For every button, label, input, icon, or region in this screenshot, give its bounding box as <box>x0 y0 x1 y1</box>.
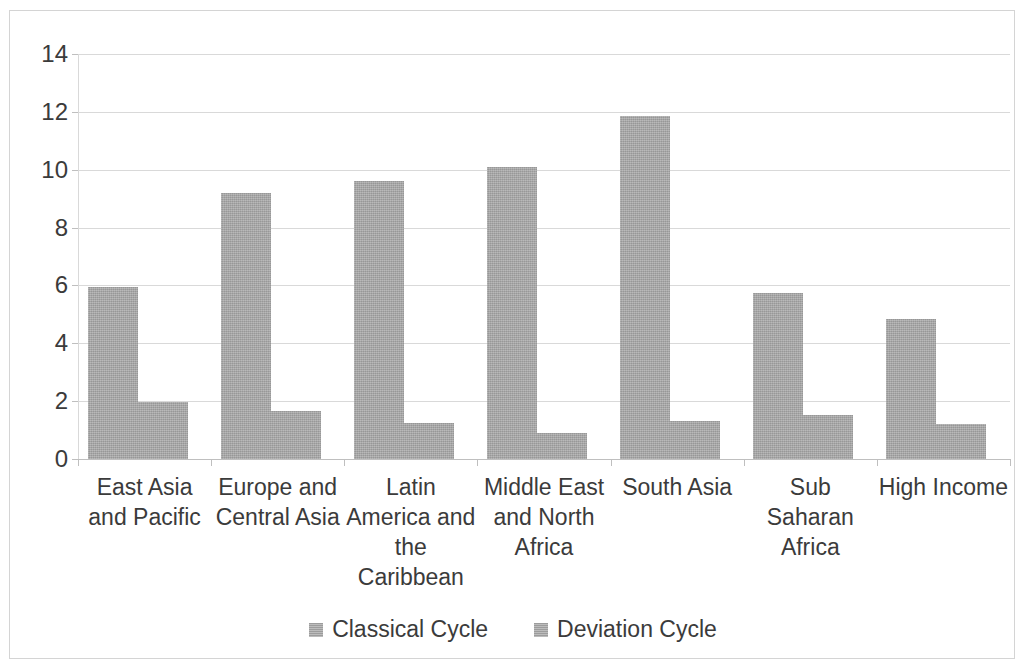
y-axis-label: 0 <box>55 447 68 471</box>
chart-container: 02468101214 East Asiaand PacificEurope a… <box>0 0 1025 669</box>
x-tick <box>78 459 79 466</box>
bar <box>404 423 454 459</box>
category-label-line: and North <box>477 502 610 532</box>
y-axis-label: 12 <box>41 100 68 124</box>
y-tick-8 <box>72 228 78 229</box>
x-tick <box>1010 459 1011 466</box>
y-axis-labels: 02468101214 <box>10 11 68 658</box>
x-axis-category-label: Europe andCentral Asia <box>211 472 344 532</box>
y-axis-label: 4 <box>55 331 68 355</box>
category-label-line: Central Asia <box>211 502 344 532</box>
bar <box>670 421 720 459</box>
bar-group <box>212 54 345 459</box>
bar-group <box>878 54 1011 459</box>
legend-item[interactable]: Deviation Cycle <box>534 618 717 641</box>
x-axis-category-label: Middle Eastand NorthAfrica <box>477 472 610 562</box>
plot-area <box>78 54 1010 459</box>
category-label-line: Middle East <box>477 472 610 502</box>
x-axis-category-label: South Asia <box>611 472 744 502</box>
category-label-line: Africa <box>744 532 877 562</box>
legend-swatch-icon <box>309 623 323 637</box>
x-tick <box>611 459 612 466</box>
category-label-line: Africa <box>477 532 610 562</box>
bars-layer <box>79 54 1010 459</box>
x-axis-category-labels: East Asiaand PacificEurope andCentral As… <box>78 472 1010 607</box>
y-axis-label: 8 <box>55 216 68 240</box>
y-tick-12 <box>72 112 78 113</box>
x-tick <box>344 459 345 466</box>
bar <box>936 424 986 459</box>
bar-group <box>745 54 878 459</box>
bar <box>271 411 321 459</box>
x-tick <box>877 459 878 466</box>
y-axis-label: 10 <box>41 158 68 182</box>
category-label-line: Latin <box>344 472 477 502</box>
x-axis-category-label: Sub SaharanAfrica <box>744 472 877 562</box>
category-label-line: East Asia <box>78 472 211 502</box>
y-tick-4 <box>72 343 78 344</box>
category-label-line: High Income <box>877 472 1010 502</box>
legend-label: Classical Cycle <box>332 618 488 641</box>
chart-legend: Classical CycleDeviation Cycle <box>10 618 1016 641</box>
category-label-line: South Asia <box>611 472 744 502</box>
y-axis-label: 14 <box>41 42 68 66</box>
category-label-line: Caribbean <box>344 562 477 592</box>
x-axis-category-label: High Income <box>877 472 1010 502</box>
bar <box>487 167 537 459</box>
bar <box>620 116 670 459</box>
x-tick <box>744 459 745 466</box>
y-tick-2 <box>72 401 78 402</box>
category-label-line: the <box>344 532 477 562</box>
bar-group <box>612 54 745 459</box>
bar <box>354 181 404 459</box>
gridline-0 <box>78 459 1010 460</box>
bar <box>753 293 803 459</box>
y-tick-6 <box>72 285 78 286</box>
bar <box>138 402 188 459</box>
category-label-line: and Pacific <box>78 502 211 532</box>
bar <box>886 319 936 459</box>
bar-group <box>478 54 611 459</box>
y-tick-14 <box>72 54 78 55</box>
x-axis-category-label: LatinAmerica andtheCaribbean <box>344 472 477 592</box>
bar <box>88 287 138 459</box>
legend-label: Deviation Cycle <box>557 618 717 641</box>
x-tick <box>477 459 478 466</box>
x-tick <box>211 459 212 466</box>
y-tick-10 <box>72 170 78 171</box>
chart-frame: 02468101214 East Asiaand PacificEurope a… <box>9 10 1015 659</box>
bar-group <box>79 54 212 459</box>
category-label-line: Europe and <box>211 472 344 502</box>
y-axis-label: 2 <box>55 389 68 413</box>
bar-group <box>345 54 478 459</box>
y-axis-label: 6 <box>55 273 68 297</box>
category-label-line: America and <box>344 502 477 532</box>
legend-item[interactable]: Classical Cycle <box>309 618 488 641</box>
bar <box>221 193 271 459</box>
legend-swatch-icon <box>534 623 548 637</box>
x-axis-category-label: East Asiaand Pacific <box>78 472 211 532</box>
bar <box>537 433 587 459</box>
bar <box>803 415 853 459</box>
category-label-line: Sub Saharan <box>744 472 877 532</box>
